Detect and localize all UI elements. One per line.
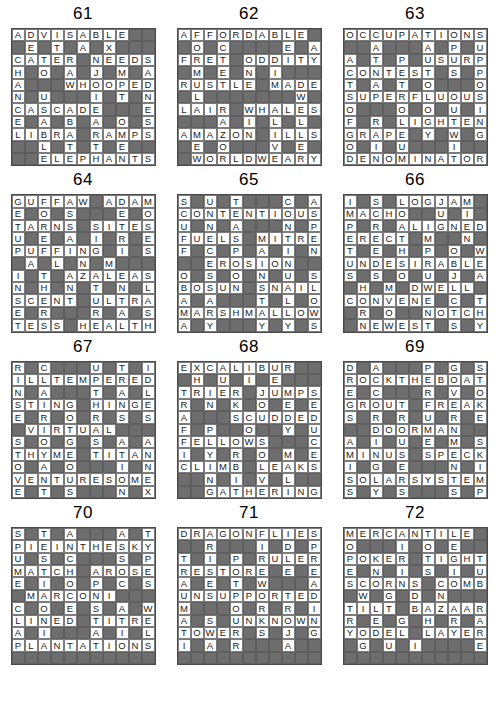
letter-cell[interactable]: E: [396, 319, 409, 331]
letter-cell[interactable]: M: [178, 602, 191, 614]
letter-cell[interactable]: C: [370, 374, 383, 386]
letter-cell[interactable]: L: [217, 232, 230, 244]
letter-cell[interactable]: W: [295, 615, 308, 627]
letter-cell[interactable]: H: [12, 66, 25, 78]
letter-cell[interactable]: L: [448, 528, 461, 540]
letter-cell[interactable]: O: [448, 577, 461, 589]
letter-cell[interactable]: J: [90, 66, 103, 78]
letter-cell[interactable]: O: [103, 79, 116, 91]
letter-cell[interactable]: L: [461, 257, 474, 269]
letter-cell[interactable]: S: [142, 639, 155, 651]
letter-cell[interactable]: L: [282, 307, 295, 319]
letter-cell[interactable]: T: [383, 66, 396, 78]
letter-cell[interactable]: A: [103, 128, 116, 140]
letter-cell[interactable]: K: [474, 448, 487, 460]
letter-cell[interactable]: D: [256, 54, 269, 66]
letter-cell[interactable]: O: [422, 103, 435, 115]
letter-cell[interactable]: A: [217, 362, 230, 374]
letter-cell[interactable]: U: [77, 424, 90, 436]
letter-cell[interactable]: E: [370, 232, 383, 244]
letter-cell[interactable]: E: [142, 232, 155, 244]
letter-cell[interactable]: I: [474, 461, 487, 473]
letter-cell[interactable]: T: [217, 565, 230, 577]
letter-cell[interactable]: R: [191, 528, 204, 540]
letter-cell[interactable]: Y: [422, 128, 435, 140]
letter-cell[interactable]: E: [142, 473, 155, 485]
letter-cell[interactable]: N: [243, 208, 256, 220]
letter-cell[interactable]: N: [269, 282, 282, 294]
letter-cell[interactable]: U: [435, 91, 448, 103]
letter-cell[interactable]: I: [25, 540, 38, 552]
letter-cell[interactable]: E: [142, 615, 155, 627]
letter-cell[interactable]: O: [344, 29, 357, 41]
letter-cell[interactable]: O: [230, 270, 243, 282]
letter-cell[interactable]: W: [474, 245, 487, 257]
letter-cell[interactable]: A: [77, 639, 90, 651]
letter-cell[interactable]: O: [116, 116, 129, 128]
letter-cell[interactable]: L: [396, 116, 409, 128]
letter-cell[interactable]: A: [422, 41, 435, 53]
letter-cell[interactable]: W: [77, 195, 90, 207]
letter-cell[interactable]: R: [191, 54, 204, 66]
letter-cell[interactable]: I: [243, 116, 256, 128]
letter-cell[interactable]: A: [64, 66, 77, 78]
letter-cell[interactable]: T: [142, 528, 155, 540]
letter-cell[interactable]: C: [38, 362, 51, 374]
letter-cell[interactable]: R: [344, 615, 357, 627]
crossword-grid[interactable]: DRAGONFLIESRIDPTIPRULERRESTOREEEAETWAUNS…: [177, 527, 322, 665]
letter-cell[interactable]: P: [308, 540, 321, 552]
letter-cell[interactable]: E: [295, 411, 308, 423]
letter-cell[interactable]: L: [230, 362, 243, 374]
letter-cell[interactable]: S: [51, 319, 64, 331]
letter-cell[interactable]: T: [178, 553, 191, 565]
letter-cell[interactable]: I: [269, 232, 282, 244]
letter-cell[interactable]: T: [116, 220, 129, 232]
letter-cell[interactable]: D: [243, 153, 256, 165]
letter-cell[interactable]: A: [204, 294, 217, 306]
crossword-grid[interactable]: ISLOGJAMMACHOUIPRALIGNEDERECTMNTEHPOWUND…: [343, 194, 488, 332]
letter-cell[interactable]: D: [25, 29, 38, 41]
letter-cell[interactable]: N: [116, 486, 129, 498]
letter-cell[interactable]: O: [422, 79, 435, 91]
letter-cell[interactable]: U: [461, 91, 474, 103]
letter-cell[interactable]: G: [64, 399, 77, 411]
letter-cell[interactable]: S: [142, 128, 155, 140]
letter-cell[interactable]: O: [282, 615, 295, 627]
letter-cell[interactable]: O: [422, 540, 435, 552]
letter-cell[interactable]: T: [217, 79, 230, 91]
letter-cell[interactable]: G: [308, 627, 321, 639]
letter-cell[interactable]: I: [204, 553, 217, 565]
letter-cell[interactable]: E: [90, 473, 103, 485]
letter-cell[interactable]: B: [448, 257, 461, 269]
letter-cell[interactable]: S: [178, 195, 191, 207]
letter-cell[interactable]: R: [51, 128, 64, 140]
letter-cell[interactable]: N: [269, 615, 282, 627]
letter-cell[interactable]: S: [142, 220, 155, 232]
letter-cell[interactable]: A: [77, 41, 90, 53]
letter-cell[interactable]: A: [282, 153, 295, 165]
letter-cell[interactable]: G: [129, 399, 142, 411]
letter-cell[interactable]: R: [308, 553, 321, 565]
letter-cell[interactable]: T: [12, 319, 25, 331]
letter-cell[interactable]: T: [178, 386, 191, 398]
letter-cell[interactable]: W: [243, 436, 256, 448]
letter-cell[interactable]: L: [217, 436, 230, 448]
letter-cell[interactable]: P: [474, 54, 487, 66]
letter-cell[interactable]: A: [90, 424, 103, 436]
letter-cell[interactable]: A: [38, 116, 51, 128]
letter-cell[interactable]: S: [243, 257, 256, 269]
letter-cell[interactable]: O: [64, 577, 77, 589]
letter-cell[interactable]: L: [422, 627, 435, 639]
letter-cell[interactable]: E: [12, 116, 25, 128]
letter-cell[interactable]: C: [383, 528, 396, 540]
letter-cell[interactable]: A: [38, 461, 51, 473]
letter-cell[interactable]: S: [370, 195, 383, 207]
letter-cell[interactable]: U: [217, 282, 230, 294]
letter-cell[interactable]: S: [409, 66, 422, 78]
letter-cell[interactable]: U: [256, 411, 269, 423]
letter-cell[interactable]: E: [204, 232, 217, 244]
letter-cell[interactable]: C: [448, 294, 461, 306]
letter-cell[interactable]: S: [474, 362, 487, 374]
letter-cell[interactable]: U: [204, 195, 217, 207]
letter-cell[interactable]: D: [409, 282, 422, 294]
